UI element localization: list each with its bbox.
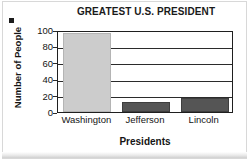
y-axis-tickmark — [53, 47, 57, 48]
x-axis-tick-label: Lincoln — [174, 114, 233, 125]
y-axis-title: Number of People — [12, 20, 23, 116]
x-axis-tick-label: Jefferson — [116, 114, 175, 125]
y-axis-tick-label: 100 — [29, 26, 53, 36]
y-axis-tick-label: 40 — [29, 75, 53, 85]
x-axis-tick-labels: WashingtonJeffersonLincoln — [57, 114, 233, 130]
chart-title: GREATEST U.S. PRESIDENT — [57, 6, 235, 17]
y-axis-tick-label: 80 — [29, 42, 53, 52]
y-axis-tickmark — [53, 63, 57, 64]
y-axis-tick-label: 0 — [29, 108, 53, 118]
y-axis-tick-labels: 100806040200 — [29, 0, 53, 163]
y-axis-tickmarks — [57, 31, 233, 113]
y-axis-tickmark — [53, 96, 57, 97]
y-axis-tick-label: 20 — [29, 92, 53, 102]
x-axis-title: Presidents — [57, 136, 233, 147]
y-axis-tickmark — [53, 31, 57, 32]
chart-figure: GREATEST U.S. PRESIDENT Number of People… — [0, 0, 249, 163]
y-axis-tickmark — [53, 80, 57, 81]
x-axis-tick-label: Washington — [57, 114, 116, 125]
y-axis-tick-label: 60 — [29, 59, 53, 69]
